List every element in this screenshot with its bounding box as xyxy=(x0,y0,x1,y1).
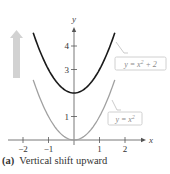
label-callout-base: y = x2 xyxy=(108,100,142,125)
y-tick-labels: 134 xyxy=(65,41,70,122)
x-axis-label: x xyxy=(148,135,153,145)
x-axis-arrow-icon xyxy=(141,138,146,142)
y-axis-label: y xyxy=(71,14,76,24)
svg-text:y = x2 + 2: y = x2 + 2 xyxy=(123,59,157,69)
svg-text:3: 3 xyxy=(65,65,70,75)
svg-text:2: 2 xyxy=(123,144,128,154)
x-tick-labels: −2−112 xyxy=(18,144,127,154)
y-axis-arrow-icon xyxy=(72,27,76,32)
chart-figure: −2−112 134 x y y = x2 + 2 y = x2 xyxy=(0,0,170,155)
svg-text:−1: −1 xyxy=(44,144,54,154)
upward-arrow-icon xyxy=(10,30,23,78)
svg-text:4: 4 xyxy=(65,41,70,51)
figure-caption: (a) Vertical shift upward xyxy=(2,155,107,166)
label-callout-shifted: y = x2 + 2 xyxy=(115,42,166,70)
svg-text:−2: −2 xyxy=(18,144,28,154)
svg-text:1: 1 xyxy=(97,144,102,154)
svg-text:1: 1 xyxy=(65,112,70,122)
caption-label: (a) xyxy=(2,155,14,166)
caption-text: Vertical shift upward xyxy=(19,155,107,166)
svg-text:y = x2: y = x2 xyxy=(114,114,135,124)
